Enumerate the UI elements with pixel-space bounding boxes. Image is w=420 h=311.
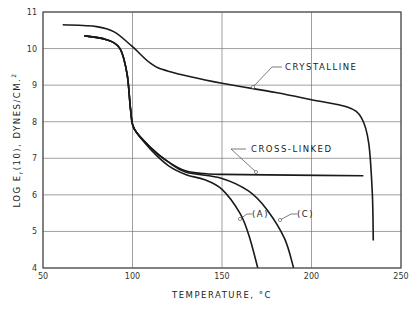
svg-text:LOG Er(10), DYNES/CM.2: LOG Er(10), DYNES/CM.2 bbox=[10, 72, 24, 207]
annotation-crosslinked: CROSS-LINKED bbox=[231, 144, 332, 174]
x-axis-label: TEMPERATURE, °C bbox=[171, 290, 272, 300]
y-tick-label: 11 bbox=[27, 8, 37, 17]
x-tick-label: 250 bbox=[393, 272, 408, 281]
svg-text:CRYSTALLINE: CRYSTALLINE bbox=[285, 62, 357, 72]
y-tick-label: 8 bbox=[32, 118, 37, 127]
modulus-temperature-chart: 50100150200250 4567891011 TEMPERATURE, °… bbox=[0, 0, 420, 311]
y-tick-label: 5 bbox=[32, 227, 37, 236]
curve-a bbox=[84, 36, 258, 268]
y-tick-labels: 4567891011 bbox=[27, 8, 37, 273]
svg-text:(C): (C) bbox=[297, 209, 314, 219]
y-axis-label: LOG Er(10), DYNES/CM.2 bbox=[10, 72, 24, 207]
y-tick-label: 4 bbox=[32, 264, 37, 273]
y-tick-label: 7 bbox=[32, 154, 37, 163]
annotation-crystalline: CRYSTALLINE bbox=[251, 62, 357, 89]
x-tick-label: 100 bbox=[125, 272, 140, 281]
curve-cross-linked bbox=[84, 36, 363, 176]
x-tick-label: 150 bbox=[214, 272, 229, 281]
svg-text:CROSS-LINKED: CROSS-LINKED bbox=[251, 144, 332, 154]
svg-text:(A): (A) bbox=[252, 209, 269, 219]
x-tick-label: 200 bbox=[304, 272, 319, 281]
x-tick-labels: 50100150200250 bbox=[38, 272, 409, 281]
x-tick-label: 50 bbox=[38, 272, 48, 281]
curve-crystalline bbox=[63, 25, 374, 241]
y-tick-label: 6 bbox=[32, 191, 37, 200]
y-tick-label: 9 bbox=[32, 81, 37, 90]
annotation-c: (C) bbox=[278, 209, 314, 222]
grid-lines bbox=[43, 12, 401, 268]
y-tick-label: 10 bbox=[27, 45, 37, 54]
